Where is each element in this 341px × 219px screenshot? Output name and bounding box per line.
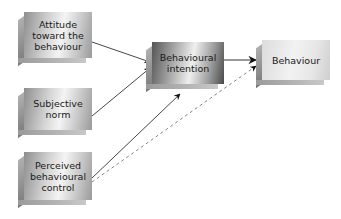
node-pbc-label: Perceived behavioural control (24, 160, 92, 193)
arrow-norm-to-intention (92, 68, 150, 116)
node-attitude: Attitude toward the behaviour (24, 12, 92, 58)
node-behaviour: Behaviour (262, 40, 330, 80)
node-behavioural-intention: Behavioural intention (152, 42, 224, 84)
arrow-attitude-to-intention (92, 42, 150, 62)
node-subjective-norm: Subjective norm (24, 88, 92, 130)
node-behaviour-label: Behaviour (270, 55, 322, 66)
arrow-pbc-to-intention (92, 94, 180, 178)
node-attitude-label: Attitude toward the behaviour (24, 19, 92, 52)
node-perceived-behavioural-control: Perceived behavioural control (24, 152, 92, 200)
node-intention-label: Behavioural intention (152, 52, 224, 74)
tpb-diagram: Attitude toward the behaviour Subjective… (0, 0, 341, 219)
node-subjective-norm-label: Subjective norm (24, 98, 92, 120)
